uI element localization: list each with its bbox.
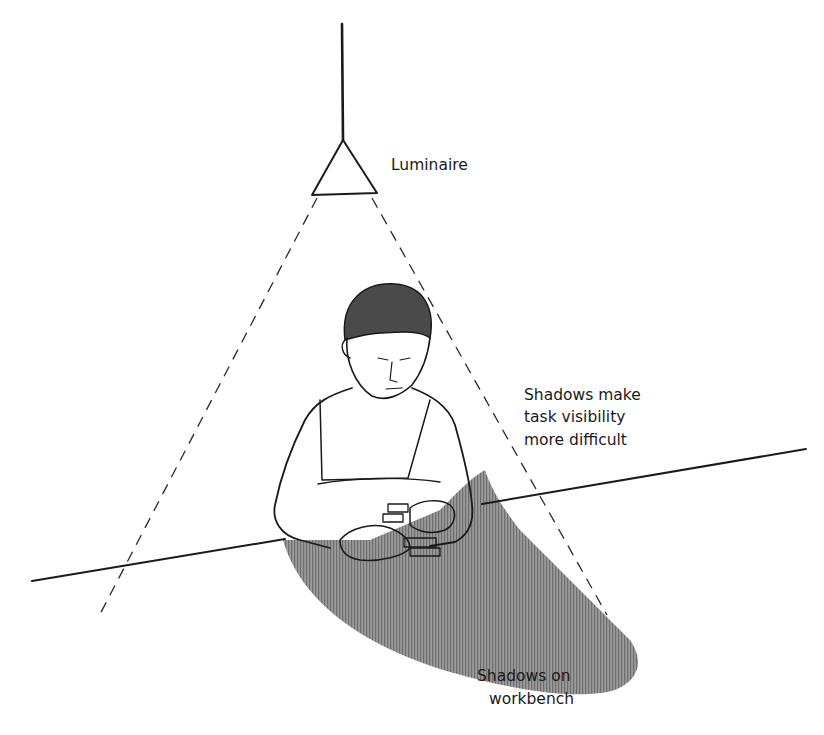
luminaire-label: Luminaire <box>391 156 468 174</box>
block <box>388 504 408 512</box>
task-shadow-label-line-2: task visibility <box>524 408 625 426</box>
block <box>383 514 403 522</box>
bench-shadow-label-line-2: workbench <box>489 690 574 708</box>
bench-shadow-label-line-1: Shadows on <box>477 667 570 685</box>
worker-apron-bib <box>320 400 430 480</box>
worker-left-arm <box>274 388 352 548</box>
workbench-edge-left <box>32 539 285 581</box>
worker-hair <box>344 284 431 340</box>
workbench-shadow <box>283 470 638 694</box>
worker-facial-features <box>378 358 410 389</box>
task-shadow-label: Shadows make task visibility more diffic… <box>524 386 641 449</box>
luminaire-icon <box>312 140 377 195</box>
task-shadow-label-line-1: Shadows make <box>524 386 641 404</box>
ceiling-cord <box>342 24 343 140</box>
light-cone-left-edge <box>98 198 317 618</box>
luminaire-shadow-diagram: Luminaire Shadows make task visibility m… <box>0 0 824 735</box>
workbench-edge-right <box>482 449 806 504</box>
task-shadow-label-line-3: more difficult <box>524 431 627 449</box>
